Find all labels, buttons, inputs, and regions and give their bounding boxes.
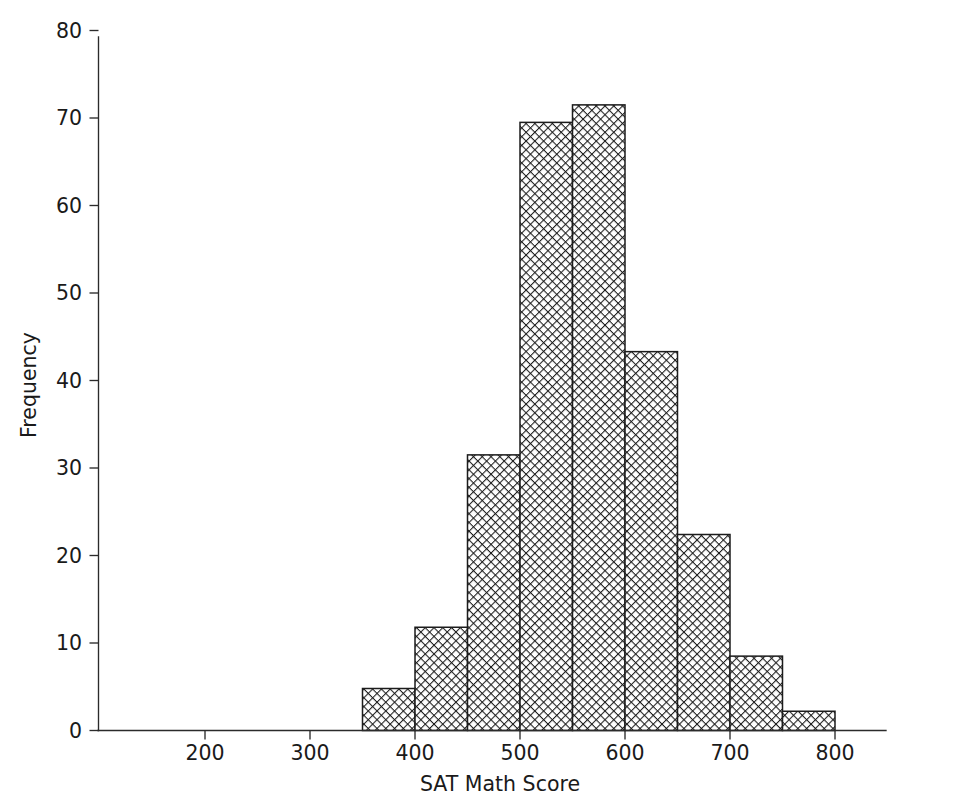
y-tick-label: 40 xyxy=(56,369,82,393)
y-tick-label: 50 xyxy=(56,281,82,305)
y-tick-label: 70 xyxy=(56,106,82,130)
histogram-bar xyxy=(678,535,731,731)
histogram-plot: 200300400500600700800 01020304050607080 … xyxy=(0,0,953,811)
histogram-bar xyxy=(730,656,783,730)
x-tick-label: 600 xyxy=(605,741,644,765)
x-tick-label: 400 xyxy=(395,741,434,765)
histogram-bar xyxy=(363,689,416,731)
y-tick-label: 0 xyxy=(69,719,82,743)
y-axis-title: Frequency xyxy=(17,332,41,438)
x-tick-label: 300 xyxy=(290,741,329,765)
histogram-bar xyxy=(415,627,468,730)
y-tick-label: 20 xyxy=(56,544,82,568)
histogram-bar xyxy=(520,122,573,730)
x-tick-label: 200 xyxy=(185,741,224,765)
x-axis-title: SAT Math Score xyxy=(420,772,580,796)
histogram-figure: 200300400500600700800 01020304050607080 … xyxy=(0,0,953,811)
y-tick-label: 80 xyxy=(56,19,82,43)
x-tick-label: 700 xyxy=(710,741,749,765)
histogram-bar xyxy=(468,455,521,731)
y-tick-label: 30 xyxy=(56,456,82,480)
histogram-bar xyxy=(625,352,678,731)
histogram-bar xyxy=(573,105,626,731)
x-tick-label: 500 xyxy=(500,741,539,765)
histogram-bar xyxy=(783,711,836,730)
y-tick-label: 10 xyxy=(56,631,82,655)
x-tick-label: 800 xyxy=(815,741,854,765)
y-tick-label: 60 xyxy=(56,194,82,218)
